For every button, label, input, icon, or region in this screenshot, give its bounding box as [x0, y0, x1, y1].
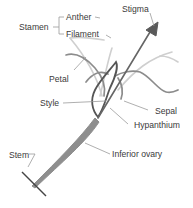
filaments [70, 37, 178, 96]
label-petal: Petal [49, 74, 69, 84]
label-hypanthium: Hypanthium [134, 120, 180, 130]
label-inferior-ovary: Inferior ovary [112, 149, 163, 159]
leader-petal [74, 57, 86, 70]
label-stem: Stem [9, 150, 29, 160]
leader-sepal [124, 101, 148, 110]
leader-style [63, 101, 106, 103]
inferior-ovary [32, 118, 99, 188]
petal-left-upper [66, 54, 105, 96]
leader-inferior-ovary [85, 143, 110, 154]
label-sepal: Sepal [155, 106, 177, 116]
leader-stigma [150, 13, 154, 26]
filament-right-tip [160, 56, 178, 62]
label-style: Style [40, 98, 59, 108]
label-stigma: Stigma [122, 4, 149, 14]
label-stamen: Stamen [19, 22, 49, 32]
label-anther: Anther [66, 12, 91, 22]
label-filament: Filament [66, 29, 100, 39]
leader-filament [106, 35, 111, 38]
leader-stamen [53, 17, 64, 34]
stigma [146, 22, 158, 36]
leader-anther [95, 17, 100, 18]
flower-diagram: Stamen Anther Filament Stigma Petal Styl… [0, 0, 193, 208]
leader-hypanthium [110, 108, 128, 124]
